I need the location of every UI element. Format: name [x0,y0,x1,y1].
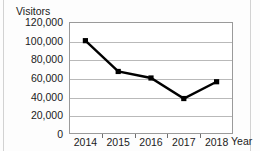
y-tick-label: 120,000 [25,17,63,28]
y-tick-label: 20,000 [31,110,63,121]
x-axis-tick-labels: 20142015201620172018 [69,137,233,151]
x-tick-mark [135,134,136,138]
x-tick-mark [200,134,201,138]
x-tick-label: 2016 [139,137,162,148]
x-axis-title: Year [231,136,252,147]
data-point-marker [83,38,88,43]
y-tick-label: 100,000 [25,35,63,46]
y-tick-label: 60,000 [31,73,63,84]
y-tick-label: 40,000 [31,91,63,102]
data-series-visitors [69,22,233,134]
x-tick-label: 2018 [205,137,228,148]
chart-figure: Visitors Year 120,000100,00080,00060,000… [0,0,260,151]
x-tick-mark [102,134,103,138]
page-rule-right [250,0,251,151]
x-tick-mark [167,134,168,138]
series-line [85,41,216,99]
data-point-marker [148,75,153,80]
x-tick-label: 2014 [74,137,97,148]
y-tick-label: 0 [57,129,63,140]
data-point-marker [214,79,219,84]
x-tick-label: 2015 [107,137,130,148]
x-tick-label: 2017 [172,137,195,148]
data-point-marker [181,96,186,101]
y-tick-label: 80,000 [31,54,63,65]
data-point-marker [116,69,121,74]
y-axis-tick-labels: 120,000100,00080,00060,00040,00020,0000 [0,22,65,134]
